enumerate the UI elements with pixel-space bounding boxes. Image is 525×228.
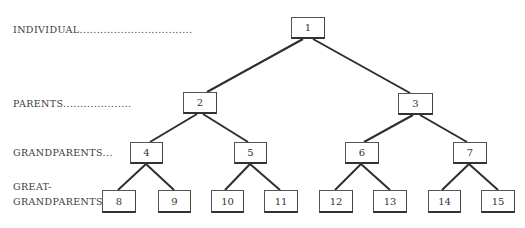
label-grandparents: GRANDPARENTS... [13, 147, 113, 158]
edge-1-2 [207, 39, 303, 92]
edge-3-7 [420, 115, 467, 142]
node-9-great-grandparent: 9 [158, 190, 191, 213]
node-3-parent: 3 [398, 93, 433, 115]
edge-3-6 [364, 115, 413, 142]
edge-7-14 [442, 164, 469, 190]
edge-2-4 [150, 114, 197, 142]
node-13-great-grandparent: 13 [373, 190, 407, 213]
node-12-great-grandparent: 12 [319, 190, 353, 213]
node-7-grandparent: 7 [453, 142, 487, 164]
node-15-great-grandparent: 15 [481, 190, 515, 213]
node-14-great-grandparent: 14 [428, 190, 461, 213]
edge-6-12 [335, 164, 361, 190]
node-8-great-grandparent: 8 [102, 190, 136, 213]
edge-6-13 [361, 164, 390, 190]
edge-5-10 [225, 164, 250, 190]
label-great: GREAT- [13, 181, 52, 192]
node-4-grandparent: 4 [130, 142, 163, 164]
node-5-grandparent: 5 [234, 142, 267, 164]
edge-4-8 [118, 164, 146, 190]
node-10-great-grandparent: 10 [211, 190, 244, 213]
edge-5-11 [250, 164, 280, 190]
edge-2-5 [203, 114, 248, 142]
label-individual: INDIVIDUAL..............................… [13, 24, 192, 35]
node-1-individual: 1 [291, 17, 325, 39]
edge-4-9 [146, 164, 174, 190]
edge-7-15 [469, 164, 498, 190]
label-great-grandparents: GRANDPARENTS [13, 196, 103, 207]
edge-1-3 [313, 39, 410, 93]
node-2-parent: 2 [183, 92, 217, 114]
node-6-grandparent: 6 [345, 142, 379, 164]
node-11-great-grandparent: 11 [264, 190, 298, 213]
label-parents: PARENTS.................... [13, 98, 131, 109]
